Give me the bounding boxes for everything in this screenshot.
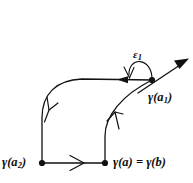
tangent-ray: [138, 63, 183, 93]
epsilon-subscript: 1: [138, 52, 142, 62]
left-curve-arrowhead: [45, 97, 59, 122]
point-gamma-a2-dot: [39, 160, 45, 166]
top-segment-arrowhead: [117, 76, 128, 83]
label-gamma-a1: γ(a1): [148, 91, 172, 105]
label-gamma-a-equals-gamma-b: γ(a) = γ(b): [113, 156, 166, 169]
figure-canvas: ε1 γ(a1) γ(a2) γ(a) = γ(b): [0, 0, 193, 183]
gamma-a2-text: γ(a: [2, 155, 18, 169]
point-gamma-a1-dot: [149, 77, 155, 83]
label-gamma-a2: γ(a2): [2, 156, 26, 170]
right-curve-arrowhead: [107, 112, 123, 129]
curve-group: [42, 63, 183, 163]
label-epsilon-1: ε1: [133, 49, 142, 62]
right-ascending-curve: [105, 80, 152, 163]
point-gamma-a-b-dot: [102, 160, 108, 166]
left-ascending-curve: [42, 79, 152, 163]
gamma-a1-text: γ(a: [148, 90, 164, 104]
gamma-a1-paren: ): [168, 90, 172, 104]
gamma-a2-paren: ): [22, 155, 26, 169]
